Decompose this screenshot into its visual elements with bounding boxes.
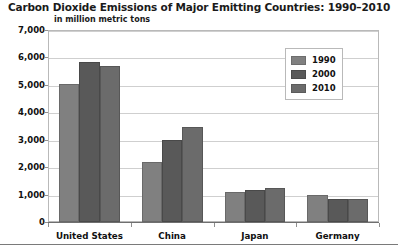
x-axis-tick-mark xyxy=(214,223,215,227)
legend-item: 1990 xyxy=(291,53,336,67)
bottom-rule xyxy=(0,244,398,245)
x-axis-category-label: United States xyxy=(56,231,123,241)
bar-group xyxy=(131,30,214,222)
bar xyxy=(225,192,245,222)
bar xyxy=(328,199,348,222)
x-axis-category-label: Japan xyxy=(241,231,268,241)
bar xyxy=(182,127,202,222)
x-axis-tick-mark xyxy=(131,223,132,227)
legend-item: 2010 xyxy=(291,81,336,95)
bar xyxy=(100,66,120,222)
y-axis-tick-label: 0 xyxy=(1,217,45,227)
chart-subtitle: in million metric tons xyxy=(54,15,150,24)
legend-swatch-icon xyxy=(291,56,306,65)
legend-swatch-icon xyxy=(291,84,306,93)
y-axis-tick-label: 1,000 xyxy=(1,190,45,200)
bar xyxy=(162,140,182,222)
y-axis-tick-label: 6,000 xyxy=(1,52,45,62)
legend-item-label: 1990 xyxy=(312,55,336,65)
x-axis-tick-mark xyxy=(379,223,380,227)
chart-legend: 199020002010 xyxy=(285,48,343,100)
legend-item: 2000 xyxy=(291,67,336,81)
bar xyxy=(348,199,368,222)
bar xyxy=(245,190,265,222)
bar xyxy=(307,195,327,222)
y-axis-tick-label: 5,000 xyxy=(1,80,45,90)
x-axis-category-label: China xyxy=(158,231,186,241)
y-axis-tick-label: 4,000 xyxy=(1,107,45,117)
legend-item-label: 2000 xyxy=(312,69,336,79)
bar-group xyxy=(214,30,297,222)
bar xyxy=(79,62,99,222)
legend-swatch-icon xyxy=(291,70,306,79)
chart-title: Carbon Dioxide Emissions of Major Emitti… xyxy=(0,1,398,13)
chart-figure: Carbon Dioxide Emissions of Major Emitti… xyxy=(0,0,398,249)
bar xyxy=(142,162,162,222)
y-axis-tick-label: 7,000 xyxy=(1,25,45,35)
bar xyxy=(265,188,285,222)
x-axis-category-label: Germany xyxy=(316,231,360,241)
bar xyxy=(59,84,79,223)
y-axis-tick-label: 2,000 xyxy=(1,162,45,172)
legend-item-label: 2010 xyxy=(312,83,336,93)
x-axis-tick-mark xyxy=(48,223,49,227)
y-axis-tick-label: 3,000 xyxy=(1,135,45,145)
bar-group xyxy=(48,30,131,222)
x-axis-tick-mark xyxy=(296,223,297,227)
